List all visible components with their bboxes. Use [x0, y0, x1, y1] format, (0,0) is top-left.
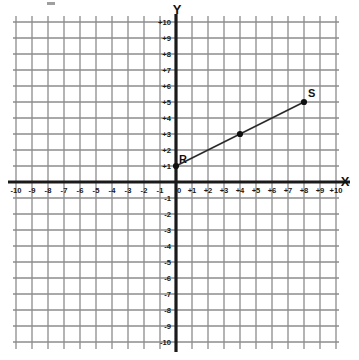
- x-tick-+8: +8: [300, 186, 309, 195]
- y-tick-+10: +10: [158, 18, 171, 27]
- x-tick--3: -3: [125, 186, 132, 195]
- point-label-R: R: [179, 153, 187, 165]
- x-tick-+7: +7: [284, 186, 293, 195]
- x-tick--2: -2: [141, 186, 148, 195]
- y-tick-+1: +1: [162, 162, 171, 171]
- y-tick--10: -10: [160, 338, 171, 347]
- y-tick--6: -6: [164, 274, 171, 283]
- y-axis-label: Y: [173, 2, 182, 17]
- y-tick--8: -8: [164, 306, 171, 315]
- x-tick--6: -6: [77, 186, 84, 195]
- coordinate-plane: -10-9-8-7-6-5-4-3-2-10+1+2+3+4+5+6+7+8+9…: [0, 0, 359, 360]
- x-axis-tick-labels: -10-9-8-7-6-5-4-3-2-10+1+2+3+4+5+6+7+8+9…: [11, 186, 343, 195]
- data-point-S: [301, 99, 307, 105]
- y-tick--1: -1: [164, 194, 172, 203]
- y-tick-+9: +9: [162, 34, 171, 43]
- x-tick--9: -9: [29, 186, 36, 195]
- data-point: [237, 131, 243, 137]
- y-tick-+6: +6: [162, 82, 171, 91]
- x-tick-+4: +4: [236, 186, 245, 195]
- y-tick-+8: +8: [162, 50, 171, 59]
- x-tick-+2: +2: [204, 186, 213, 195]
- y-tick-+3: +3: [162, 130, 171, 139]
- x-tick-+9: +9: [316, 186, 325, 195]
- y-tick--9: -9: [164, 322, 171, 331]
- axis-lines: [8, 14, 350, 352]
- x-tick-+5: +5: [252, 186, 261, 195]
- y-tick--3: -3: [164, 226, 171, 235]
- y-tick-+4: +4: [162, 114, 171, 123]
- y-tick--5: -5: [164, 258, 172, 267]
- y-tick-+2: +2: [162, 146, 171, 155]
- x-tick-+3: +3: [220, 186, 229, 195]
- y-tick--2: -2: [164, 210, 171, 219]
- coordinate-grid-figure: -10-9-8-7-6-5-4-3-2-10+1+2+3+4+5+6+7+8+9…: [0, 0, 359, 360]
- x-tick--4: -4: [109, 186, 117, 195]
- y-tick-+7: +7: [162, 66, 171, 75]
- x-axis-label: X: [341, 174, 350, 189]
- x-tick--5: -5: [93, 186, 101, 195]
- x-tick-+6: +6: [268, 186, 277, 195]
- x-tick--8: -8: [45, 186, 52, 195]
- point-label-S: S: [308, 87, 315, 99]
- y-tick--7: -7: [164, 290, 171, 299]
- x-tick--10: -10: [11, 186, 22, 195]
- x-tick--7: -7: [61, 186, 68, 195]
- data-point-labels: RS: [179, 87, 315, 165]
- y-tick-+5: +5: [162, 98, 171, 107]
- y-tick--4: -4: [164, 242, 172, 251]
- x-tick-+1: +1: [188, 186, 197, 195]
- x-tick--1: -1: [157, 186, 165, 195]
- x-tick-0: 0: [177, 186, 181, 195]
